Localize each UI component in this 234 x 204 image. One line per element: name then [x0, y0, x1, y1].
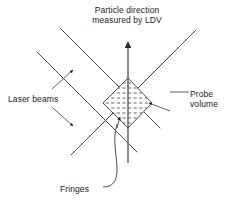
probe-volume-label: Probe volume — [190, 89, 234, 109]
laser-arrow-up — [52, 70, 73, 89]
laser-arrow-down — [52, 107, 73, 126]
particle-direction-title: Particle direction measured by LDV — [72, 5, 182, 25]
probe-volume-leader — [149, 92, 189, 111]
fringes-leader-curve — [103, 124, 117, 187]
fringes-label: Fringes — [60, 184, 89, 194]
probe-volume-leader-arrow — [149, 103, 170, 111]
fringes-leader — [103, 117, 120, 187]
probe-volume-line-1: Probe — [190, 89, 213, 99]
ldv-probe-volume-diagram: Particle direction measured by LDV Laser… — [0, 0, 234, 204]
title-line-2: measured by LDV — [92, 15, 162, 25]
probe-volume-line-2: volume — [190, 99, 218, 109]
laser-beams-label: Laser beams — [8, 94, 58, 104]
beam-upper-left — [60, 28, 160, 128]
title-line-1: Particle direction — [95, 5, 160, 15]
